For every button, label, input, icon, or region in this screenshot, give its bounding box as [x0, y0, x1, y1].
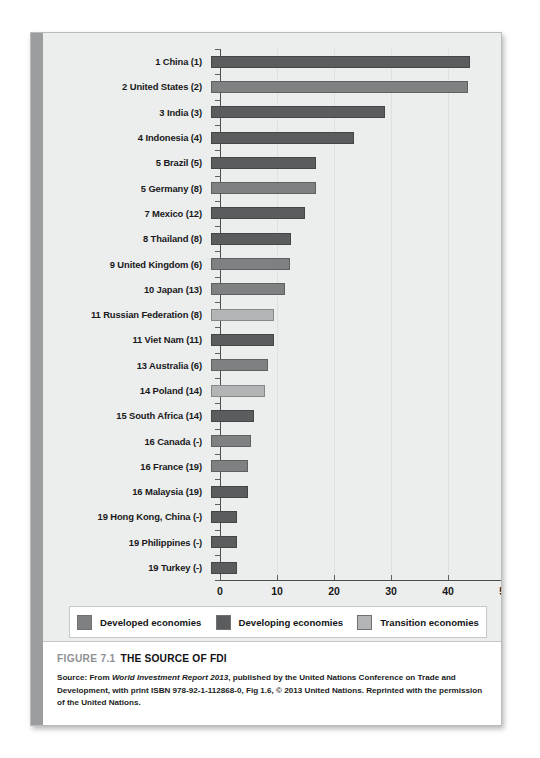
bar: [211, 132, 354, 144]
bar-track: [211, 530, 501, 555]
bar: [211, 460, 248, 472]
x-axis-label: 50: [499, 585, 502, 597]
legend-label: Developing economies: [239, 617, 344, 628]
bar-row: 7 Mexico (12): [43, 201, 501, 226]
bar-row: 1 China (1): [43, 49, 501, 74]
bar-category-label: 15 South Africa (14): [43, 410, 211, 421]
bar: [211, 385, 265, 397]
bar-row: 2 United States (2): [43, 74, 501, 99]
bar: [211, 233, 291, 245]
y-axis-tick: [215, 125, 221, 126]
bar-row: 13 Australia (6): [43, 353, 501, 378]
x-axis-tick: [391, 575, 392, 580]
bar-track: [211, 277, 501, 302]
bar: [211, 435, 251, 447]
bar-row: 19 Hong Kong, China (-): [43, 504, 501, 529]
bar-category-label: 19 Philippines (-): [43, 537, 211, 548]
bar-category-label: 13 Australia (6): [43, 360, 211, 371]
bar-category-label: 4 Indonesia (4): [43, 132, 211, 143]
bar-category-label: 1 China (1): [43, 56, 211, 67]
bar: [211, 182, 316, 194]
bar: [211, 258, 290, 270]
bar: [211, 536, 237, 548]
y-axis-tick: [215, 454, 221, 455]
bar-row: 9 United Kingdom (6): [43, 251, 501, 276]
bar-track: [211, 403, 501, 428]
legend-label: Transition economies: [380, 617, 479, 628]
bar: [211, 106, 385, 118]
source-prefix: Source: From: [57, 673, 112, 682]
x-axis-label: 10: [271, 585, 283, 597]
bar-category-label: 9 United Kingdom (6): [43, 259, 211, 270]
bar-row: 4 Indonesia (4): [43, 125, 501, 150]
y-axis-tick: [215, 302, 221, 303]
bar-rows: 1 China (1)2 United States (2)3 India (3…: [43, 49, 501, 580]
x-axis-line: [220, 580, 502, 581]
y-axis-tick: [215, 530, 221, 531]
y-axis-tick: [215, 327, 221, 328]
bar-track: [211, 100, 501, 125]
bar-track: [211, 504, 501, 529]
bar-category-label: 10 Japan (13): [43, 284, 211, 295]
bar-row: 5 Germany (8): [43, 175, 501, 200]
bar: [211, 283, 285, 295]
y-axis-tick: [215, 353, 221, 354]
bar-category-label: 19 Turkey (-): [43, 562, 211, 573]
bar-category-label: 11 Russian Federation (8): [43, 309, 211, 320]
y-axis-tick: [215, 429, 221, 430]
legend-swatch-icon: [77, 615, 92, 630]
bar-track: [211, 378, 501, 403]
y-axis-tick: [215, 403, 221, 404]
y-axis-tick: [215, 504, 221, 505]
bar-track: [211, 251, 501, 276]
bar-track: [211, 454, 501, 479]
bar-category-label: 7 Mexico (12): [43, 208, 211, 219]
bar-track: [211, 175, 501, 200]
bar-category-label: 3 India (3): [43, 107, 211, 118]
bar-category-label: 5 Germany (8): [43, 183, 211, 194]
bar-row: 16 Canada (-): [43, 428, 501, 453]
figure-card: 1 China (1)2 United States (2)3 India (3…: [30, 32, 502, 726]
y-axis-tick: [215, 49, 221, 50]
legend-item: Transition economies: [357, 615, 479, 630]
bar-category-label: 19 Hong Kong, China (-): [43, 511, 211, 522]
figure-title: THE SOURCE OF FDI: [120, 653, 226, 664]
bar: [211, 359, 268, 371]
bar-row: 16 France (19): [43, 454, 501, 479]
bar: [211, 486, 248, 498]
bar-category-label: 2 United States (2): [43, 81, 211, 92]
bar-track: [211, 74, 501, 99]
bar-track: [211, 226, 501, 251]
bar-row: 8 Thailand (8): [43, 226, 501, 251]
bar-row: 11 Russian Federation (8): [43, 302, 501, 327]
bar: [211, 309, 274, 321]
bar: [211, 562, 237, 574]
bar: [211, 511, 237, 523]
bar-category-label: 16 France (19): [43, 461, 211, 472]
bar-row: 11 Viet Nam (11): [43, 327, 501, 352]
bar-row: 15 South Africa (14): [43, 403, 501, 428]
bar-track: [211, 555, 501, 580]
figure-caption: FIGURE 7.1THE SOURCE OF FDI Source: From…: [43, 641, 501, 725]
bar-track: [211, 327, 501, 352]
figure-number: FIGURE 7.1: [57, 653, 115, 664]
bar-track: [211, 428, 501, 453]
bar-row: 19 Philippines (-): [43, 530, 501, 555]
bar-track: [211, 353, 501, 378]
bar-track: [211, 49, 501, 74]
y-axis-tick: [215, 226, 221, 227]
y-axis-tick: [215, 150, 221, 151]
y-axis-tick: [215, 580, 221, 581]
bar: [211, 56, 470, 68]
bar-track: [211, 302, 501, 327]
bar: [211, 157, 316, 169]
caption-source: Source: From World Investment Report 201…: [57, 672, 487, 710]
x-axis-label: 20: [328, 585, 340, 597]
bar-row: 14 Poland (14): [43, 378, 501, 403]
bar-track: [211, 125, 501, 150]
y-axis-tick: [215, 176, 221, 177]
y-axis-tick: [215, 251, 221, 252]
y-axis-tick: [215, 100, 221, 101]
bar-row: 10 Japan (13): [43, 277, 501, 302]
bar: [211, 410, 254, 422]
